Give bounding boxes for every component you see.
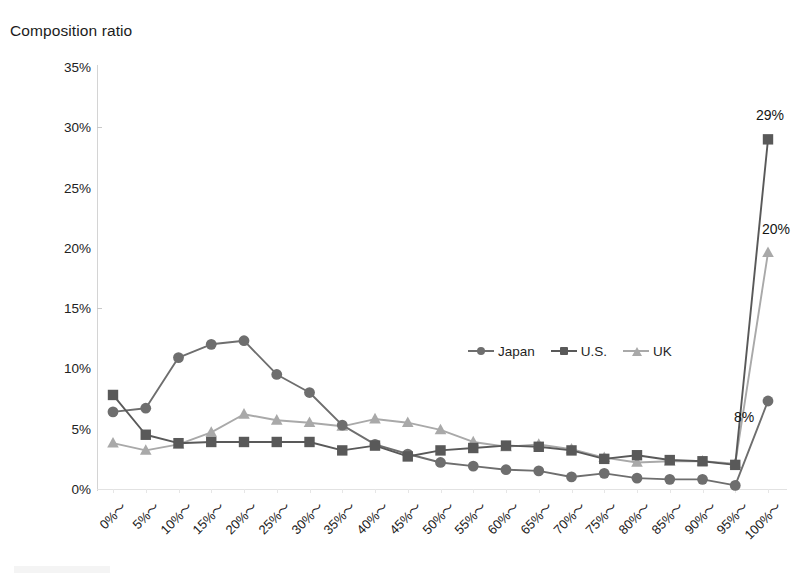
data-point-marker xyxy=(370,440,380,450)
y-axis-tick-mark xyxy=(97,308,102,309)
data-point-marker xyxy=(108,390,118,400)
data-point-marker xyxy=(501,464,512,475)
data-point-marker xyxy=(763,396,774,407)
data-point-marker xyxy=(468,443,478,453)
data-point-marker xyxy=(141,430,151,440)
data-point-marker xyxy=(435,445,445,455)
series-us xyxy=(108,134,773,470)
data-point-marker xyxy=(206,437,216,447)
data-point-marker xyxy=(304,387,315,398)
data-point-marker xyxy=(238,408,250,419)
legend-swatch-icon xyxy=(468,345,494,357)
data-point-marker xyxy=(533,466,544,477)
y-axis-tick-mark xyxy=(97,127,102,128)
legend-item-japan[interactable]: Japan xyxy=(468,344,535,359)
data-point-marker xyxy=(632,450,642,460)
legend-swatch-icon xyxy=(551,345,577,357)
data-point-marker xyxy=(337,420,348,431)
series-japan xyxy=(108,335,774,490)
data-point-marker xyxy=(173,438,183,448)
series-uk xyxy=(107,246,774,468)
data-point-marker xyxy=(632,473,643,484)
data-point-marker xyxy=(730,460,740,470)
data-point-marker xyxy=(468,461,479,472)
legend-item-label: U.S. xyxy=(581,344,607,359)
series-line xyxy=(113,139,768,465)
data-point-marker xyxy=(599,468,610,479)
data-point-marker xyxy=(566,445,576,455)
data-point-marker xyxy=(239,437,249,447)
data-point-marker xyxy=(239,335,250,346)
data-point-label: 29% xyxy=(756,107,784,123)
data-point-marker xyxy=(665,455,675,465)
chart-legend: JapanU.S.UK xyxy=(468,340,672,362)
legend-item-uk[interactable]: UK xyxy=(623,344,672,359)
data-point-marker xyxy=(205,426,217,437)
legend-item-label: Japan xyxy=(498,344,535,359)
data-point-marker xyxy=(534,442,544,452)
data-point-marker xyxy=(337,445,347,455)
data-point-marker xyxy=(369,413,381,424)
data-point-marker xyxy=(107,437,119,448)
data-point-marker xyxy=(501,440,511,450)
data-point-marker xyxy=(272,437,282,447)
line-chart: Composition ratio 0%5%10%15%20%25%30%35%… xyxy=(0,0,812,584)
data-point-marker xyxy=(173,352,184,363)
data-point-marker xyxy=(304,437,314,447)
data-point-marker xyxy=(435,457,446,468)
data-point-marker xyxy=(271,369,282,380)
data-point-marker xyxy=(730,480,741,491)
legend-item-us[interactable]: U.S. xyxy=(551,344,607,359)
data-point-label: 8% xyxy=(734,409,754,425)
data-point-marker xyxy=(566,472,577,483)
data-point-marker xyxy=(403,451,413,461)
data-point-label: 20% xyxy=(762,221,790,237)
legend-item-label: UK xyxy=(653,344,672,359)
data-point-marker xyxy=(206,339,217,350)
data-point-marker xyxy=(697,474,708,485)
legend-swatch-icon xyxy=(623,345,649,357)
data-point-marker xyxy=(140,403,151,414)
data-point-marker xyxy=(762,246,774,257)
data-point-marker xyxy=(599,454,609,464)
data-point-marker xyxy=(763,134,773,144)
data-point-marker xyxy=(664,474,675,485)
data-point-marker xyxy=(697,456,707,466)
data-point-marker xyxy=(108,406,119,417)
scan-artifact xyxy=(14,566,110,573)
series-plot-layer xyxy=(0,0,812,584)
